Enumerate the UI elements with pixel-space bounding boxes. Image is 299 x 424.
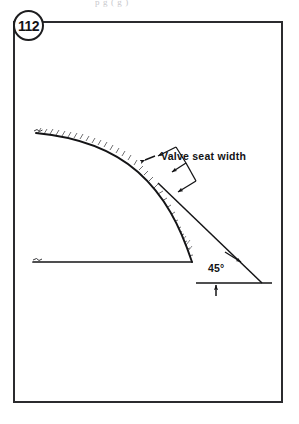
page-header-fragment: p g ( g )	[95, 0, 285, 8]
figure-frame	[13, 21, 283, 403]
figure-number-text: 112	[18, 19, 39, 33]
valve-seat-width-label: Valve seat width	[161, 150, 246, 162]
figure-page: p g ( g )	[0, 0, 299, 424]
seat-angle-label: 45°	[208, 262, 224, 274]
figure-number-badge: 112	[13, 10, 44, 41]
